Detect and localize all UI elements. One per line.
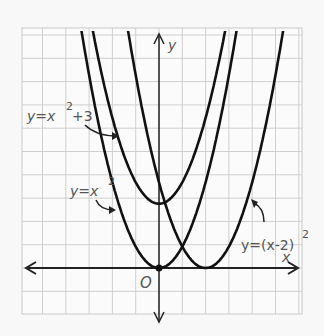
svg-text:y=x: y=x (26, 108, 56, 124)
label-main: y=x (26, 108, 56, 124)
coordinate-plane: y x O y=x 2 +3 y=x 2 y=(x-2) 2 (0, 0, 324, 336)
graph-figure: y x O y=x 2 +3 y=x 2 y=(x-2) 2 (0, 0, 324, 336)
label-exponent: 2 (302, 228, 309, 241)
origin-point (156, 265, 163, 272)
origin-label: O (140, 274, 152, 292)
label-main: y=(x-2) (241, 237, 294, 253)
label-tail: +3 (72, 108, 93, 124)
y-axis-label: y (167, 37, 177, 53)
label-main: y=x (69, 183, 99, 199)
label-exponent: 2 (108, 175, 115, 188)
grid-background (22, 28, 302, 314)
